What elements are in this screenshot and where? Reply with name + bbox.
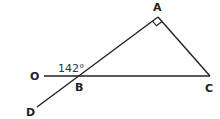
label-d: D	[26, 106, 35, 119]
line-ac	[158, 17, 210, 76]
label-b: B	[75, 81, 83, 94]
label-c: C	[205, 82, 213, 95]
angle-label-obq: 142°	[58, 62, 85, 75]
label-o: O	[30, 70, 39, 83]
geometry-diagram: A B C O D 142°	[0, 0, 220, 119]
line-da	[37, 17, 158, 107]
label-a: A	[153, 1, 162, 14]
right-angle-marker	[152, 21, 162, 26]
